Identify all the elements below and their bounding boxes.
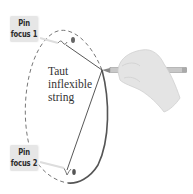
pin2-label-line1: Pin bbox=[10, 147, 38, 158]
pin2-label-line2: focus 2 bbox=[10, 158, 38, 169]
pin1-label-line2: focus 1 bbox=[10, 29, 38, 40]
pin-focus-2-icon bbox=[63, 167, 76, 175]
pin2-leader bbox=[40, 162, 64, 168]
pin-focus-2-label: Pin focus 2 bbox=[10, 145, 38, 171]
ellipse-diagram: Pin focus 1 Pin focus 2 Taut inflexible … bbox=[0, 0, 193, 194]
pin1-label-line1: Pin bbox=[10, 18, 38, 29]
string-caption-line1: Taut bbox=[48, 65, 92, 78]
pin1-leader bbox=[40, 38, 58, 43]
string-caption-line3: string bbox=[48, 91, 92, 104]
string-caption-line2: inflexible bbox=[48, 78, 92, 91]
hand-icon bbox=[118, 50, 180, 112]
pin-focus-1-icon bbox=[58, 37, 75, 44]
pin-focus-1-label: Pin focus 1 bbox=[10, 16, 38, 42]
string-caption: Taut inflexible string bbox=[48, 65, 92, 104]
